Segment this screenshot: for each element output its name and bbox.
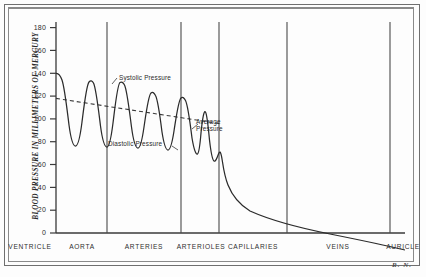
segment-label-veins: VEINS — [326, 243, 349, 250]
y-tick-marks — [50, 28, 56, 233]
annotation-systolic-pressure: Systolic Pressure — [119, 74, 171, 81]
y-tick-label-0: 0 — [24, 229, 46, 236]
segment-label-capillaries: CAPILLARIES — [228, 243, 278, 250]
y-tick-label-80: 80 — [24, 138, 46, 145]
segment-dividers — [107, 22, 390, 233]
plot-area — [0, 0, 426, 277]
segment-label-arterioles: ARTERIOLES — [177, 243, 226, 250]
leader-systolic — [112, 78, 117, 84]
y-tick-label-60: 60 — [24, 161, 46, 168]
average-pressure-dashed-line — [56, 98, 219, 123]
y-tick-label-180: 180 — [24, 24, 46, 31]
y-tick-label-140: 140 — [24, 70, 46, 77]
blood-pressure-figure: BLOOD PRESSURE IN MILLIMETERS OF MERCURY — [0, 0, 426, 277]
y-tick-label-120: 120 — [24, 92, 46, 99]
y-tick-label-20: 20 — [24, 206, 46, 213]
blood-pressure-curve — [56, 73, 405, 250]
artist-signature: R. N. — [392, 261, 412, 269]
segment-label-arteries: ARTERIES — [125, 243, 163, 250]
y-tick-label-100: 100 — [24, 115, 46, 122]
leader-diastolic — [172, 146, 178, 150]
segment-label-auricle: AURICLE — [386, 243, 419, 250]
annotation-average-pressure: Average Pressure — [196, 118, 236, 133]
segment-label-aorta: AORTA — [69, 243, 95, 250]
y-tick-label-160: 160 — [24, 47, 46, 54]
annotation-diastolic-pressure: Diastolic Pressure — [108, 140, 162, 147]
segment-label-ventricle: VENTRICLE — [8, 243, 51, 250]
y-tick-label-40: 40 — [24, 184, 46, 191]
